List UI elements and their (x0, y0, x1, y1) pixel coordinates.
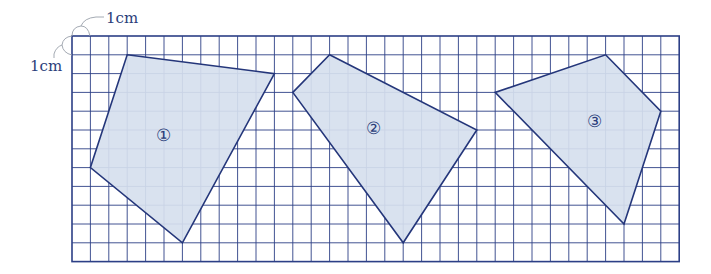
vertical-scale-bracket (54, 36, 72, 58)
horizontal-scale-label: 1cm (106, 9, 138, 27)
shape-3: ③ (495, 55, 661, 224)
shapes-layer: ①②③ (90, 55, 660, 243)
shape-number-label: ③ (587, 111, 602, 131)
shape-number-label: ① (156, 125, 171, 145)
horizontal-scale-bracket (72, 17, 104, 36)
vertical-scale-label: 1cm (30, 57, 62, 75)
shape-number-label: ② (366, 118, 381, 138)
grid-diagram: ①②③ 1cm 1cm (0, 0, 711, 274)
quadrilateral-polygon (495, 55, 661, 224)
scale-annotation: 1cm 1cm (30, 9, 138, 75)
